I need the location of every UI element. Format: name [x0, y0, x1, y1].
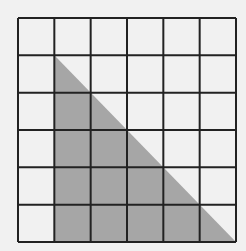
grid-diagram: [0, 0, 246, 251]
